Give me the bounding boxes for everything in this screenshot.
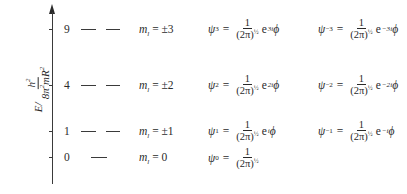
energy-level-line	[91, 157, 107, 158]
wavefunction-negative: ψ−1 = 1(2π)½ e−iϕ	[318, 119, 395, 143]
wavefunction-negative: ψ−2 = 1(2π)½ e−2iϕ	[318, 73, 398, 97]
wavefunction-negative: ψ−3 = 1(2π)½ e−3iϕ	[318, 17, 398, 41]
axis-tick-1	[49, 131, 53, 132]
y-axis-label-fraction: h2 8π2mR2	[26, 65, 51, 102]
energy-level-line	[106, 131, 120, 132]
energy-level-line	[106, 85, 120, 86]
wavefunction-positive: ψ1 = 1(2π)½ eiϕ	[208, 119, 276, 143]
energy-axis	[52, 12, 53, 184]
energy-level-line	[81, 131, 96, 132]
y-axis-label: E/ h2 8π2mR2	[26, 64, 51, 112]
energy-level-line	[81, 85, 96, 86]
ml-label: ml = 0	[139, 151, 167, 163]
energy-level-line	[106, 29, 120, 30]
axis-tick-0	[49, 157, 53, 158]
energy-value-0: 0	[64, 151, 70, 163]
ml-label: ml = ±1	[139, 125, 174, 137]
energy-value-4: 4	[64, 79, 70, 91]
wavefunction-positive: ψ2 = 1(2π)½ e2iϕ	[208, 73, 279, 97]
energy-level-line	[81, 29, 96, 30]
ml-label: ml = ±2	[139, 79, 174, 91]
ml-label: ml = ±3	[139, 23, 174, 35]
axis-tick-9	[49, 29, 53, 30]
energy-value-9: 9	[64, 23, 70, 35]
axis-tick-4	[49, 85, 53, 86]
wavefunction-ground: ψ0 = 1(2π)½	[208, 146, 262, 170]
wavefunction-positive: ψ3 = 1(2π)½ e3iϕ	[208, 17, 279, 41]
energy-value-1: 1	[64, 125, 70, 137]
